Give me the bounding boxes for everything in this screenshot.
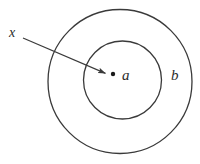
set-diagram-figure: x a b [0, 0, 200, 164]
element-dot [111, 72, 115, 76]
label-b: b [171, 68, 179, 83]
pointer-arrow-x [23, 38, 106, 73]
diagram-canvas [0, 0, 200, 164]
label-x: x [9, 26, 15, 40]
label-a: a [122, 68, 130, 83]
